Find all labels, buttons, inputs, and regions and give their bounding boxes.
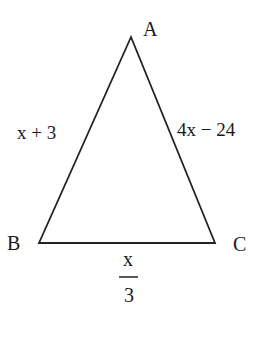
vertex-label-b: B [7,232,20,254]
side-label-bc-numerator: x [123,248,133,270]
side-label-ac: 4x − 24 [177,119,236,140]
side-label-bc-denominator: 3 [124,284,134,306]
vertex-label-a: A [143,18,158,40]
vertex-label-c: C [233,233,246,255]
triangle-abc [39,37,215,243]
side-label-ab: x + 3 [17,122,56,143]
triangle-diagram: A B C x + 3 4x − 24 x 3 [0,0,275,339]
